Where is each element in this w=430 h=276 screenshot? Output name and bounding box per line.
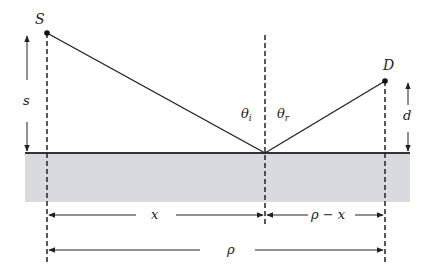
- destination-point: [382, 78, 388, 84]
- destination-label: D: [382, 57, 394, 73]
- incident-ray: [47, 33, 265, 153]
- source-label: S: [35, 11, 45, 27]
- rho-label: ρ: [226, 242, 235, 257]
- reflection-diagram: S D s d θi θr x ρ − x ρ: [0, 0, 430, 276]
- x-distance-label: x: [151, 207, 159, 222]
- reflected-angle-label: θr: [277, 106, 290, 123]
- d-height-label: d: [403, 108, 411, 123]
- source-point: [44, 30, 50, 36]
- incident-angle-label: θi: [241, 106, 252, 123]
- rho-minus-x-label: ρ − x: [310, 207, 346, 222]
- ground-band: [25, 153, 410, 202]
- s-height-label: s: [23, 93, 30, 108]
